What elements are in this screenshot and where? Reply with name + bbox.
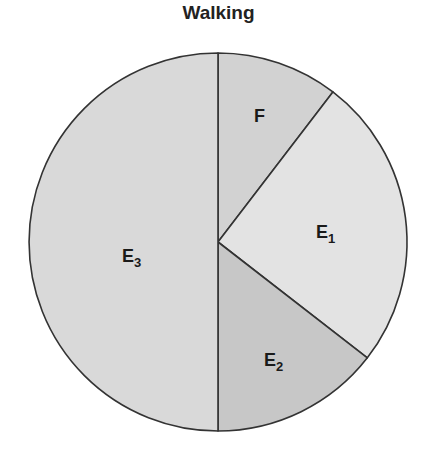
- pie-slices: [29, 53, 407, 431]
- pie-chart: FE1E2E3: [0, 0, 433, 455]
- slice-label-f: F: [254, 106, 265, 126]
- pie-slice-e3: [29, 53, 218, 431]
